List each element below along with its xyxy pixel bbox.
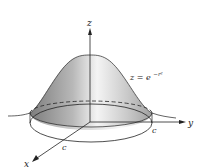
equation-label: z = e −r² bbox=[129, 71, 163, 82]
z-axis-label: z bbox=[86, 18, 92, 28]
bell-tail-left bbox=[8, 113, 30, 116]
equation-exponent: −r² bbox=[153, 71, 162, 77]
x-axis-arrow-icon bbox=[32, 155, 39, 162]
bell-tail-right bbox=[152, 113, 176, 118]
equation-base: z = e bbox=[129, 73, 151, 82]
radius-label-x: c bbox=[62, 143, 67, 152]
y-axis-label: y bbox=[187, 118, 194, 128]
y-axis-arrow-icon bbox=[179, 120, 186, 124]
radius-label-y: c bbox=[152, 126, 157, 135]
gaussian-surface-figure: z y x c c z = e −r² bbox=[0, 0, 200, 168]
x-axis-label: x bbox=[24, 159, 29, 168]
bell-surface bbox=[30, 55, 152, 127]
z-axis-arrow-icon bbox=[88, 28, 92, 35]
